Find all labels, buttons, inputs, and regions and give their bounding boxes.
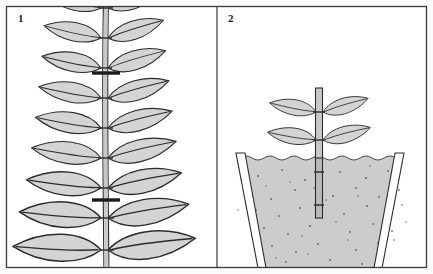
figure-canvas: 1 2 (0, 0, 433, 274)
cutting-stem-buried (314, 152, 324, 218)
panel-1-background (7, 7, 216, 267)
panel-1-content (7, 0, 216, 274)
panel-2-number: 2 (228, 12, 234, 24)
plant-stem (103, 0, 109, 274)
panel-2-content (218, 7, 426, 268)
cutting-stem-exposed (316, 88, 323, 158)
botanical-figure: 1 2 (0, 0, 433, 274)
panel-1-number: 1 (18, 12, 24, 24)
